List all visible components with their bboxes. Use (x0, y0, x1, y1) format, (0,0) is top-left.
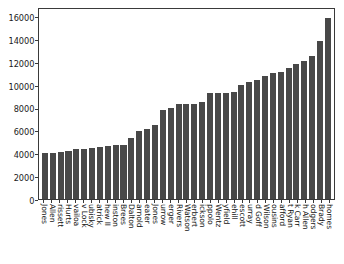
x-axis-label-slot: Jones (41, 204, 47, 264)
x-axis-label-slot: inston (112, 204, 118, 264)
x-axis-label-slot: erbert (191, 204, 197, 264)
x-axis-tick (152, 200, 158, 203)
x-axis-label-slot: v Lock (81, 204, 87, 264)
bar (246, 82, 252, 199)
x-axis-tick-mark (202, 200, 203, 203)
x-axis-tick-label: Hurts (64, 204, 72, 224)
x-axis-tick-mark (154, 200, 155, 203)
x-axis-tick-mark (91, 200, 92, 203)
x-axis-tick (302, 200, 308, 203)
x-axis-tick-mark (281, 200, 282, 203)
x-axis-tick (112, 200, 118, 203)
x-axis-tick-mark (234, 200, 235, 203)
x-axis-tick-mark (226, 200, 227, 203)
x-axis-tick-label: ousins (270, 204, 278, 228)
x-axis-tick-label: Jones (40, 204, 48, 224)
x-axis-tick-mark (43, 200, 44, 203)
x-axis-tick (120, 200, 126, 203)
bar (191, 104, 197, 199)
x-axis-tick-label: urray (246, 204, 254, 224)
x-axis-label-slot: afford (279, 204, 285, 264)
bar (152, 125, 158, 199)
bar (105, 146, 111, 199)
x-axis-label-slot: h Allen (302, 204, 308, 264)
x-axis-tick-mark (305, 200, 306, 203)
bar (97, 147, 103, 199)
bar (231, 92, 237, 199)
x-axis-tick-label: escott (238, 204, 246, 227)
x-axis-tick-mark (67, 200, 68, 203)
x-axis-tick-label: Dalton (127, 204, 135, 228)
x-axis-tick-mark (194, 200, 195, 203)
y-axis-tick-label: 10000 (8, 82, 38, 90)
x-axis-label-slot: ickson (199, 204, 205, 264)
x-axis-tick-mark (321, 200, 322, 203)
x-axis-tick-mark (265, 200, 266, 203)
x-axis-tick (128, 200, 134, 203)
x-axis-tick (136, 200, 142, 203)
x-axis-tick-label: urrow (159, 204, 167, 225)
bar (58, 152, 64, 199)
x-axis-label-slot: urray (247, 204, 253, 264)
plot-area (38, 8, 335, 200)
x-axis-label-slot: eater (144, 204, 150, 264)
x-axis-tick (96, 200, 102, 203)
x-axis-tick (199, 200, 205, 203)
x-axis-tick-label: afford (278, 204, 286, 226)
x-axis-tick-label: arnold (135, 204, 143, 227)
bar (160, 110, 166, 199)
x-axis-tick-mark (210, 200, 211, 203)
x-axis-label-slot: yfield (223, 204, 229, 264)
y-axis: 0200040006000800010000120001400016000 (0, 8, 38, 200)
bar (113, 145, 119, 199)
x-axis-label-slot: homes (326, 204, 332, 264)
x-axis-tick (271, 200, 277, 203)
x-axis-tick-mark (99, 200, 100, 203)
x-axis-tick (65, 200, 71, 203)
x-axis-label-slot: Brady (318, 204, 324, 264)
bar-chart-figure: 0200040006000800010000120001400016000 Jo… (0, 0, 344, 264)
x-axis-tick (41, 200, 47, 203)
x-axis-tick-label: erger (167, 204, 175, 224)
x-axis-tick-mark (242, 200, 243, 203)
x-axis-tick-mark (139, 200, 140, 203)
x-axis-label-slot: Wentz (215, 204, 221, 264)
x-axis-tick (160, 200, 166, 203)
x-axis-label-slot: Watson (183, 204, 189, 264)
x-axis-tick-label: Rivers (175, 204, 183, 227)
x-axis-tick (231, 200, 237, 203)
x-axis-tick-label: vailoa (72, 204, 80, 226)
bar (65, 151, 71, 199)
x-axis-label-slot: Dalton (128, 204, 134, 264)
bar (176, 104, 182, 199)
bar (317, 41, 323, 199)
x-axis-label-slot: k Carr (294, 204, 300, 264)
x-axis-tick (310, 200, 316, 203)
x-axis-tick (81, 200, 87, 203)
bar-series (39, 9, 334, 199)
x-axis-tick-mark (257, 200, 258, 203)
x-axis-tick (49, 200, 55, 203)
x-axis-tick (191, 200, 197, 203)
bar (42, 153, 48, 199)
x-axis-tick-mark (146, 200, 147, 203)
x-axis-tick-mark (186, 200, 187, 203)
x-axis-tick-label: Allen (48, 204, 56, 222)
bar (223, 93, 229, 199)
x-axis-tick-mark (329, 200, 330, 203)
x-axis-tick (255, 200, 261, 203)
x-axis-tick-label: ehill (230, 204, 238, 219)
x-axis-tick (326, 200, 332, 203)
y-axis-tick-label: 16000 (8, 14, 38, 22)
x-axis-tick-label: rissett (56, 204, 64, 227)
x-axis-tick-mark (115, 200, 116, 203)
x-axis-tick (247, 200, 253, 203)
x-axis-tick (294, 200, 300, 203)
x-axis-tick-mark (123, 200, 124, 203)
x-axis: JonesAllenrissettHurtsvailoav Lockubisky… (38, 200, 335, 264)
x-axis-tick-mark (83, 200, 84, 203)
x-axis-label-slot: ubisky (88, 204, 94, 264)
x-axis-tick-mark (75, 200, 76, 203)
x-axis-tick-mark (249, 200, 250, 203)
bar (254, 80, 260, 199)
